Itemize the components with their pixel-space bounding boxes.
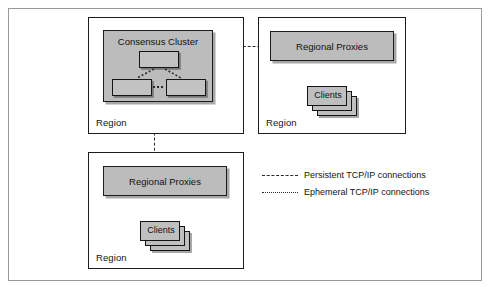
region-east-label: Region (266, 117, 297, 128)
clients-south-stack[interactable]: Clients (140, 221, 192, 251)
consensus-node-leader[interactable] (139, 51, 179, 68)
clients-south-label: Clients (141, 225, 181, 235)
regional-proxies-east-box[interactable]: Regional Proxies (270, 31, 394, 61)
clients-east-sheet-front: Clients (307, 86, 347, 106)
clients-east-label: Clients (308, 90, 348, 100)
legend-item-persistent: Persistent TCP/IP connections (262, 168, 442, 182)
legend-dotted-line-icon (262, 192, 298, 193)
consensus-node-follower-1[interactable] (112, 79, 152, 96)
legend-persistent-label: Persistent TCP/IP connections (304, 170, 426, 180)
regional-proxies-south-box[interactable]: Regional Proxies (103, 166, 227, 196)
regional-proxies-south-label: Regional Proxies (104, 176, 226, 187)
legend-ephemeral-label: Ephemeral TCP/IP connections (304, 187, 429, 197)
region-south-label: Region (96, 252, 127, 263)
region-primary-label: Region (96, 117, 127, 128)
regional-proxies-east-label: Regional Proxies (271, 41, 393, 52)
diagram-canvas: Region Consensus Cluster Region Regional… (0, 0, 492, 287)
clients-east-stack[interactable]: Clients (307, 86, 359, 116)
legend-dashed-line-icon (262, 175, 298, 176)
legend: Persistent TCP/IP connections Ephemeral … (262, 168, 442, 202)
consensus-cluster-box[interactable]: Consensus Cluster (103, 30, 213, 102)
legend-item-ephemeral: Ephemeral TCP/IP connections (262, 185, 442, 199)
figure-frame (8, 8, 482, 281)
clients-south-sheet-front: Clients (140, 221, 180, 241)
consensus-node-follower-2[interactable] (166, 79, 206, 96)
